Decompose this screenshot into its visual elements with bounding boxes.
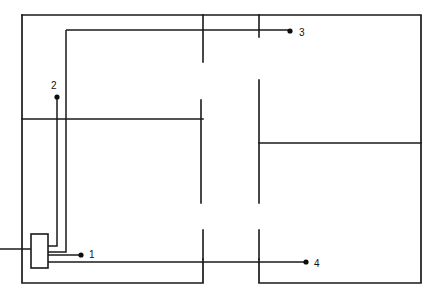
terminal-4-group[interactable]: 4 [303,258,320,269]
terminal-2-label: 2 [51,80,57,91]
terminal-1-dot[interactable] [78,252,83,257]
terminal-1-label: 1 [89,249,95,260]
terminal-1-group[interactable]: 1 [78,249,95,260]
terminal-2-dot[interactable] [54,94,59,99]
terminal-3-dot[interactable] [287,28,292,33]
interior-wall-group [22,15,421,259]
floor-plan-diagram: 1 2 3 4 [0,0,428,295]
outer-wall-right-segment [22,15,421,283]
terminal-3-group[interactable]: 3 [287,27,305,38]
floorplan-canvas: 1 2 3 4 [0,0,428,295]
outer-wall-left-segment [22,15,203,283]
distribution-box[interactable] [31,234,48,268]
outer-wall-group [22,15,421,283]
terminal-3-label: 3 [299,27,305,38]
terminal-2-group[interactable]: 2 [51,80,60,100]
cable-routing-group [0,30,306,262]
terminal-4-label: 4 [314,258,320,269]
terminal-4-dot[interactable] [303,259,308,264]
